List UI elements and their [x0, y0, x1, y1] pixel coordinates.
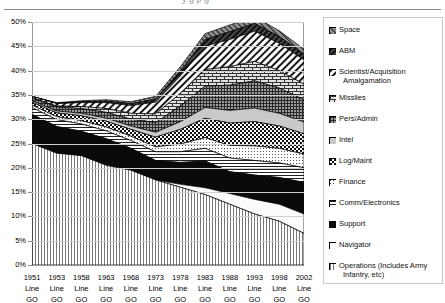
legend-swatch-icon	[329, 95, 336, 102]
x-axis-labels: 1951LineGO1953LineGO1958LineGO1963LineGO…	[0, 268, 316, 303]
y-axis-tick-label: 15%	[0, 188, 26, 196]
gridline	[32, 71, 304, 72]
stacked-area-chart: 0%5%10%15%20%25%30%35%40%45%50%	[0, 16, 316, 271]
gridline	[32, 192, 304, 193]
gridline	[32, 168, 304, 169]
y-axis-tick-label: 20%	[0, 164, 26, 172]
y-axis-tick	[28, 119, 32, 120]
legend-item-pers-admin[interactable]: Pers/Admin	[329, 115, 441, 124]
legend-item-finance[interactable]: Finance	[329, 178, 441, 187]
legend-swatch-icon	[329, 221, 336, 228]
x-axis-category-sublabel-1: GO	[288, 294, 320, 303]
y-axis-tick	[28, 192, 32, 193]
y-axis-tick	[28, 216, 32, 217]
legend-item-label: Missiles	[339, 94, 366, 103]
legend-item-navigator[interactable]: Navigator	[329, 241, 441, 250]
legend-item-label: Space	[339, 26, 360, 35]
gridline	[32, 241, 304, 242]
legend-item-support[interactable]: Support	[329, 220, 441, 229]
y-axis-tick-label: 30%	[0, 115, 26, 123]
legend-item-label: Support	[339, 220, 365, 229]
gridline	[32, 46, 304, 47]
y-axis-tick	[28, 265, 32, 266]
legend-swatch-icon	[329, 48, 336, 55]
legend-swatch-icon	[329, 27, 336, 34]
y-axis-tick	[28, 144, 32, 145]
y-axis-tick	[28, 95, 32, 96]
legend-item-label: Operations (Includes ArmyInfantry, etc)	[339, 262, 427, 279]
legend-swatch-icon	[329, 200, 336, 207]
clipped-title-fragment: y g p g	[0, 0, 445, 9]
y-axis-tick	[28, 22, 32, 23]
legend-item-label: ABM	[339, 47, 355, 56]
x-axis-line	[32, 265, 304, 266]
legend-item-label: Scientist/AcquisitionAmalgamation	[339, 68, 406, 85]
header-divider	[4, 9, 441, 10]
y-axis-tick-label: 35%	[0, 91, 26, 99]
x-axis-category-sublabel-0: Line	[288, 283, 320, 294]
y-axis-tick	[28, 46, 32, 47]
y-axis-tick-label: 5%	[0, 237, 26, 245]
chart-legend: SpaceABMScientist/AcquisitionAmalgamatio…	[323, 17, 443, 284]
legend-item-label: Pers/Admin	[339, 115, 378, 124]
legend-item-label: Navigator	[339, 241, 371, 250]
y-axis-tick	[28, 71, 32, 72]
legend-item-log-maint[interactable]: Log/Maint	[329, 157, 441, 166]
legend-item-label: Log/Maint	[339, 157, 372, 166]
gridline	[32, 95, 304, 96]
legend-swatch-icon	[329, 242, 336, 249]
legend-item-abm[interactable]: ABM	[329, 47, 441, 56]
gridline	[32, 216, 304, 217]
legend-item-scientist-acquisition[interactable]: Scientist/AcquisitionAmalgamation	[329, 68, 441, 85]
legend-item-label: Finance	[339, 178, 366, 187]
legend-swatch-icon	[329, 179, 336, 186]
legend-swatch-icon	[329, 116, 336, 123]
y-axis-tick-label: 50%	[0, 18, 26, 26]
y-axis-tick-label: 40%	[0, 67, 26, 75]
legend-item-intel[interactable]: Intel	[329, 136, 441, 145]
legend-item-label-line2: Infantry, etc)	[339, 271, 427, 280]
gridline	[32, 119, 304, 120]
gridline	[32, 22, 304, 23]
legend-swatch-icon	[329, 263, 336, 270]
legend-swatch-icon	[329, 158, 336, 165]
y-axis-tick	[28, 168, 32, 169]
legend-item-label-line2: Amalgamation	[339, 77, 406, 86]
legend-item-comm-electronics[interactable]: Comm/Electronics	[329, 199, 441, 208]
x-axis-category-year: 2002	[288, 272, 320, 283]
legend-item-space[interactable]: Space	[329, 26, 441, 35]
legend-swatch-icon	[329, 137, 336, 144]
chart-screenshot: y g p g 0%5%10%15%20%25%30%35%40%45%50%	[0, 0, 445, 303]
legend-item-operations-includes-army[interactable]: Operations (Includes ArmyInfantry, etc)	[329, 262, 441, 279]
legend-item-missiles[interactable]: Missiles	[329, 94, 441, 103]
y-axis-tick-label: 25%	[0, 140, 26, 148]
y-axis-tick	[28, 241, 32, 242]
y-axis-tick-label: 45%	[0, 42, 26, 50]
gridline	[32, 144, 304, 145]
legend-swatch-icon	[329, 69, 336, 76]
legend-item-label: Intel	[339, 136, 353, 145]
legend-item-label: Comm/Electronics	[339, 199, 400, 208]
x-axis-category: 2002LineGO	[288, 272, 320, 303]
y-axis-tick-label: 10%	[0, 212, 26, 220]
